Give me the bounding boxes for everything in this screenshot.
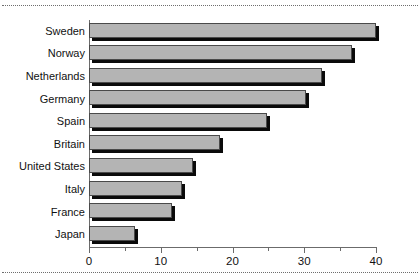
bar-row: Netherlands	[0, 65, 420, 88]
bar-category-label: Netherlands	[0, 71, 85, 82]
bar-row: Sweden	[0, 20, 420, 43]
bar-track	[89, 133, 420, 156]
axis-tick-label: 10	[154, 255, 167, 267]
bar-category-label: Spain	[0, 116, 85, 127]
bar-category-label: United States	[0, 161, 85, 172]
bar	[89, 203, 172, 218]
axis-tick-label: 0	[86, 255, 92, 267]
axis-tick-major	[233, 247, 234, 253]
axis-tick-minor	[125, 247, 126, 251]
axis-tick-major	[161, 247, 162, 253]
bar-row: United States	[0, 156, 420, 179]
plot-area: SwedenNorwayNetherlandsGermanySpainBrita…	[0, 14, 420, 264]
value-axis-ticks: 010203040	[0, 247, 420, 277]
bar-category-label: Germany	[0, 94, 85, 105]
bar-track	[89, 20, 420, 43]
bar	[89, 181, 182, 196]
bar-track	[89, 156, 420, 179]
axis-tick-label: 20	[226, 255, 239, 267]
bar	[89, 158, 193, 173]
bar-track	[89, 223, 420, 246]
bar-track	[89, 178, 420, 201]
bar	[89, 226, 135, 241]
bar-category-label: Italy	[0, 184, 85, 195]
axis-tick-label: 30	[298, 255, 311, 267]
bar	[89, 90, 306, 105]
axis-tick-major	[304, 247, 305, 253]
axis-tick-major	[376, 247, 377, 253]
bar-row: Italy	[0, 178, 420, 201]
bar-row: Japan	[0, 223, 420, 246]
bar	[89, 113, 267, 128]
bar	[89, 68, 322, 83]
axis-tick-minor	[197, 247, 198, 251]
bar-row: France	[0, 201, 420, 224]
bar-category-label: Sweden	[0, 26, 85, 37]
bar-track	[89, 65, 420, 88]
bar	[89, 23, 376, 38]
bar-track	[89, 110, 420, 133]
bar	[89, 135, 220, 150]
axis-tick-major	[89, 247, 90, 253]
bar-category-label: France	[0, 207, 85, 218]
bar-track	[89, 88, 420, 111]
bar-chart-figure: SwedenNorwayNetherlandsGermanySpainBrita…	[0, 0, 420, 279]
axis-tick-minor	[340, 247, 341, 251]
bar-category-label: Japan	[0, 229, 85, 240]
page-rule-top	[2, 5, 418, 6]
bar-rows: SwedenNorwayNetherlandsGermanySpainBrita…	[0, 20, 420, 246]
bar-category-label: Norway	[0, 48, 85, 59]
axis-tick-minor	[268, 247, 269, 251]
bar-row: Spain	[0, 110, 420, 133]
bar-row: Britain	[0, 133, 420, 156]
bar-category-label: Britain	[0, 139, 85, 150]
bar-row: Germany	[0, 88, 420, 111]
axis-tick-label: 40	[370, 255, 383, 267]
bar-row: Norway	[0, 43, 420, 66]
bar-track	[89, 43, 420, 66]
bar-track	[89, 201, 420, 224]
bar	[89, 45, 352, 60]
